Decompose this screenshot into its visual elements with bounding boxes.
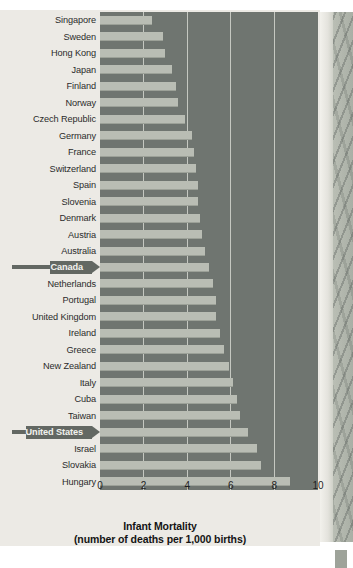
bar [100, 16, 152, 25]
category-label: Germany [59, 131, 96, 141]
bar [100, 411, 240, 420]
bar [100, 32, 163, 41]
category-label: Denmark [59, 213, 96, 223]
axis-title-block: Infant Mortality (number of deaths per 1… [0, 520, 320, 546]
category-label: Czech Republic [33, 114, 96, 124]
bar [100, 82, 176, 91]
highlight-callout-canada: Canada [50, 261, 92, 274]
bar [100, 461, 261, 470]
category-label: Ireland [69, 328, 96, 338]
bar [100, 296, 216, 305]
gridline-8 [274, 12, 275, 490]
category-axis-labels: SingaporeSwedenHong KongJapanFinlandNorw… [0, 12, 100, 490]
page-edge-top-notch [320, 0, 353, 12]
category-label: Sweden [63, 32, 96, 42]
bar [100, 444, 257, 453]
category-label: Slovenia [62, 197, 96, 207]
category-label: Hong Kong [51, 48, 96, 58]
bar [100, 148, 194, 157]
category-label: Greece [66, 345, 96, 355]
category-label: Singapore [55, 15, 96, 25]
bar-chart: SingaporeSwedenHong KongJapanFinlandNorw… [0, 12, 320, 492]
chart-subtitle: (number of deaths per 1,000 births) [0, 533, 320, 546]
category-label: New Zealand [43, 361, 96, 371]
category-label: Slovakia [62, 460, 96, 470]
category-label: Portugal [63, 295, 96, 305]
bar [100, 131, 192, 140]
category-label: Spain [73, 180, 96, 190]
category-label: Australia [61, 246, 96, 256]
x-tick-label: 0 [97, 480, 103, 492]
category-label: Switzerland [50, 164, 96, 174]
category-label: Hungary [62, 477, 96, 487]
bar [100, 247, 205, 256]
bar [100, 345, 224, 354]
bar [100, 428, 248, 437]
bar [100, 263, 209, 272]
category-label: Israel [74, 444, 96, 454]
bar [100, 230, 202, 239]
category-label: Italy [80, 378, 96, 388]
x-tick-label: 4 [184, 480, 190, 492]
category-label: Japan [71, 65, 96, 75]
bar [100, 181, 198, 190]
x-tick-label: 8 [272, 480, 278, 492]
highlight-callout-united-states: United States [26, 426, 92, 439]
bar [100, 49, 165, 58]
paper-bottom-margin [0, 546, 320, 568]
x-tick-label: 2 [141, 480, 147, 492]
bar [100, 214, 200, 223]
category-label: Norway [65, 98, 96, 108]
bar [100, 65, 172, 74]
plot-area [100, 12, 318, 490]
bar [100, 279, 213, 288]
chart-page: SingaporeSwedenHong KongJapanFinlandNorw… [0, 0, 353, 568]
page-edge-bottom-tab [335, 550, 347, 568]
bar [100, 164, 196, 173]
category-label: Taiwan [68, 411, 96, 421]
category-label: Austria [68, 230, 96, 240]
x-tick-label: 6 [228, 480, 234, 492]
category-label: France [68, 147, 96, 157]
bar [100, 329, 220, 338]
value-axis: 0246810 [100, 479, 318, 495]
gridline-10 [318, 12, 319, 490]
x-tick-label: 10 [312, 480, 323, 492]
bar [100, 362, 229, 371]
category-label: Finland [67, 81, 96, 91]
bar [100, 98, 178, 107]
bar [100, 395, 237, 404]
bar [100, 312, 216, 321]
bar [100, 197, 198, 206]
callout-label: Canada [50, 262, 83, 272]
category-label: Netherlands [48, 279, 96, 289]
paper-top-margin [0, 0, 320, 10]
callout-label: United States [26, 427, 83, 437]
chart-title: Infant Mortality [0, 520, 320, 533]
category-label: Cuba [74, 394, 96, 404]
bar [100, 115, 185, 124]
category-label: United Kingdom [32, 312, 96, 322]
bar [100, 378, 233, 387]
